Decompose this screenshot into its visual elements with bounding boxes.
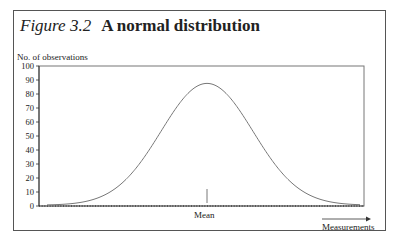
y-tick-label: 10 bbox=[26, 187, 35, 197]
y-tick-label: 0 bbox=[30, 201, 34, 211]
y-tick-label: 30 bbox=[26, 159, 35, 169]
mean-label: Mean bbox=[194, 210, 215, 220]
y-tick-label: 70 bbox=[26, 103, 35, 113]
y-tick-label: 100 bbox=[21, 61, 34, 71]
y-tick-label: 50 bbox=[26, 131, 35, 141]
arrowhead-icon bbox=[366, 217, 371, 222]
y-tick-label: 90 bbox=[26, 75, 35, 85]
plot-area bbox=[39, 66, 364, 206]
y-tick-label: 20 bbox=[26, 173, 35, 183]
y-tick-label: 80 bbox=[26, 89, 35, 99]
chart-plot: 0102030405060708090100 bbox=[0, 0, 401, 240]
normal-curve bbox=[47, 83, 360, 205]
x-axis-label: Measurements bbox=[322, 222, 374, 232]
y-tick-label: 60 bbox=[26, 117, 35, 127]
y-ticks: 0102030405060708090100 bbox=[21, 61, 39, 211]
y-tick-label: 40 bbox=[26, 145, 35, 155]
